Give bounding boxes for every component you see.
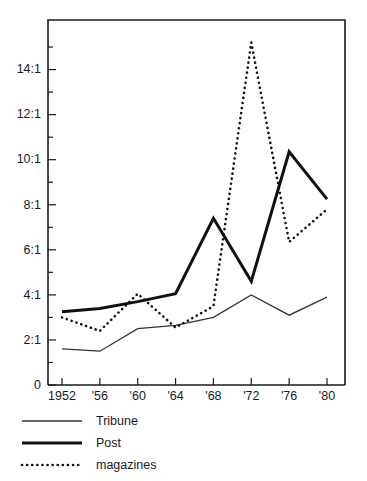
x-tick-label: '76 <box>281 389 297 403</box>
y-axis-tick-labels: 02:14:16:18:110:112:114:1 <box>17 62 41 391</box>
x-tick-label: '56 <box>92 389 108 403</box>
x-tick-label: '80 <box>319 389 335 403</box>
y-tick-label: 10:1 <box>17 152 41 166</box>
x-tick-label: '72 <box>243 389 259 403</box>
y-tick-label: 6:1 <box>24 243 41 257</box>
ratio-line-chart: 02:14:16:18:110:112:114:1 1952'56'60'64'… <box>0 0 367 481</box>
legend-label-magazines: magazines <box>96 458 156 472</box>
x-tick-label: 1952 <box>48 389 76 403</box>
series-line-tribune <box>62 295 327 351</box>
x-tick-label: '64 <box>167 389 183 403</box>
chart-figure: 02:14:16:18:110:112:114:1 1952'56'60'64'… <box>0 0 367 481</box>
y-tick-label: 2:1 <box>24 333 41 347</box>
y-tick-label: 12:1 <box>17 107 41 121</box>
chart-legend: TribunePostmagazines <box>22 414 156 472</box>
x-tick-label: '60 <box>130 389 146 403</box>
x-axis-ticks <box>62 378 327 385</box>
y-tick-label: 0 <box>34 378 41 392</box>
series-line-magazines <box>62 43 327 331</box>
x-axis-tick-labels: 1952'56'60'64'68'72'76'80 <box>48 389 335 403</box>
legend-label-post: Post <box>96 436 122 450</box>
y-tick-label: 8:1 <box>24 198 41 212</box>
axes-border <box>48 20 345 385</box>
y-tick-label: 14:1 <box>17 62 41 76</box>
series-group <box>62 43 327 352</box>
y-axis-ticks <box>48 47 56 385</box>
plot-frame <box>48 20 345 385</box>
y-tick-label: 4:1 <box>24 288 41 302</box>
x-tick-label: '68 <box>205 389 221 403</box>
legend-label-tribune: Tribune <box>96 414 138 428</box>
